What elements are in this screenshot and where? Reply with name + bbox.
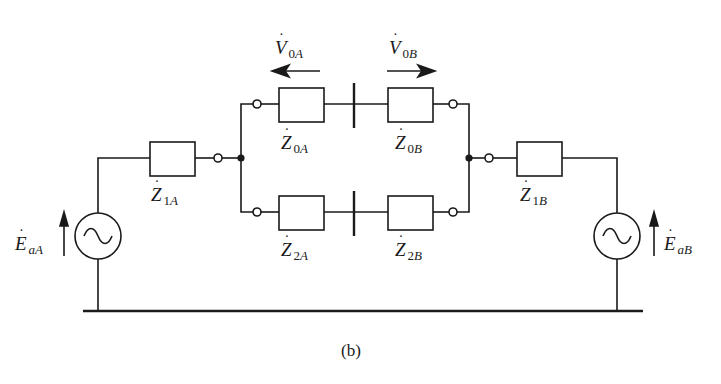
terminal-z0b [449,100,457,108]
label-z0a: Z˙0A [281,133,308,155]
label-eaa: E˙aA [15,234,43,256]
label-v0a: V˙0A [275,38,303,60]
impedance-z1b [517,142,562,176]
terminal-z2b [449,208,457,216]
terminal-z0a [253,100,261,108]
label-eab: E˙aB [664,234,692,256]
sine-wave-icon [84,229,112,244]
ac-source-a [75,213,121,259]
junction-left [238,155,244,161]
sine-wave-icon [603,229,631,244]
label-z2a: Z˙2A [281,240,308,262]
label-z1a: Z˙1A [151,185,178,207]
impedance-z0a [279,88,324,122]
impedance-z2b [388,196,433,230]
arrow-up-icon [650,212,658,256]
arrow-right-icon [387,65,435,77]
terminal-z1a [214,154,222,162]
terminal-z2a [253,208,261,216]
impedance-z0b [388,88,433,122]
impedance-z2a [279,196,324,230]
label-z0b: Z˙0B [395,133,422,155]
impedance-z1a [150,142,195,176]
circuit-diagram [0,0,721,384]
ac-source-b [594,213,640,259]
terminal-z1b [485,154,493,162]
figure-caption: (b) [341,341,361,361]
label-z1b: Z˙1B [520,185,547,207]
wire-left-source [98,158,150,311]
arrow-up-icon [60,212,68,256]
arrow-left-icon [272,65,320,77]
label-z2b: Z˙2B [395,240,422,262]
label-v0b: V˙0B [389,38,417,60]
